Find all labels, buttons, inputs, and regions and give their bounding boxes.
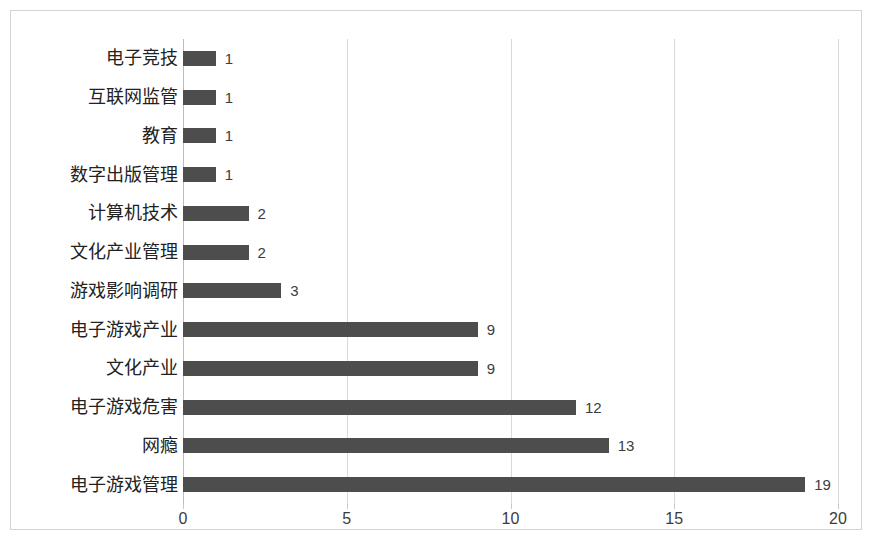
category-label: 游戏影响调研 — [18, 282, 178, 300]
bar-value-label: 9 — [487, 361, 495, 376]
y-axis-category-labels: 电子竞技互联网监管教育数字出版管理计算机技术文化产业管理游戏影响调研电子游戏产业… — [13, 39, 178, 504]
x-tick-label: 10 — [502, 511, 520, 527]
x-tick-label: 5 — [342, 511, 351, 527]
category-label: 网瘾 — [18, 437, 178, 455]
bar-row[interactable]: 1 — [183, 155, 838, 194]
tick-mark-20 — [838, 504, 839, 509]
x-tick-label: 15 — [665, 511, 683, 527]
bar-value-label: 2 — [258, 206, 266, 221]
category-label: 数字出版管理 — [18, 166, 178, 184]
category-label: 文化产业 — [18, 359, 178, 377]
bar-row[interactable]: 3 — [183, 272, 838, 311]
tick-mark-0 — [183, 504, 184, 509]
bar-value-label: 1 — [225, 167, 233, 182]
tick-mark-5 — [347, 504, 348, 509]
bar-row[interactable]: 19 — [183, 465, 838, 504]
bar[interactable] — [183, 361, 478, 376]
bar-value-label: 13 — [618, 438, 635, 453]
bar[interactable] — [183, 283, 281, 298]
tick-mark-15 — [674, 504, 675, 509]
bar-row[interactable]: 1 — [183, 117, 838, 156]
bar-value-label: 1 — [225, 128, 233, 143]
bar[interactable] — [183, 477, 805, 492]
bar-row[interactable]: 9 — [183, 349, 838, 388]
bar[interactable] — [183, 400, 576, 415]
category-label: 计算机技术 — [18, 204, 178, 222]
bar-value-label: 9 — [487, 322, 495, 337]
bar[interactable] — [183, 322, 478, 337]
category-label: 教育 — [18, 127, 178, 145]
category-label: 电子游戏产业 — [18, 321, 178, 339]
bar[interactable] — [183, 128, 216, 143]
bar[interactable] — [183, 167, 216, 182]
bar-value-label: 3 — [290, 283, 298, 298]
category-label: 电子竞技 — [18, 49, 178, 67]
category-label: 电子游戏管理 — [18, 476, 178, 494]
x-tick-label: 20 — [829, 511, 847, 527]
gridline-20 — [838, 39, 839, 504]
bar-chart-figure: 电子竞技互联网监管教育数字出版管理计算机技术文化产业管理游戏影响调研电子游戏产业… — [0, 0, 870, 542]
bar-row[interactable]: 2 — [183, 233, 838, 272]
tick-mark-10 — [511, 504, 512, 509]
x-axis-tick-labels: 05101520 — [183, 511, 838, 541]
bar[interactable] — [183, 206, 249, 221]
bar[interactable] — [183, 438, 609, 453]
bar[interactable] — [183, 51, 216, 66]
bar-value-label: 19 — [814, 477, 831, 492]
category-label: 电子游戏危害 — [18, 398, 178, 416]
bar-row[interactable]: 1 — [183, 39, 838, 78]
bar-row[interactable]: 13 — [183, 427, 838, 466]
bar[interactable] — [183, 245, 249, 260]
bar-row[interactable]: 12 — [183, 388, 838, 427]
plot-area: 111122399121319 — [183, 39, 838, 504]
bar-row[interactable]: 1 — [183, 78, 838, 117]
bar-value-label: 2 — [258, 245, 266, 260]
category-label: 文化产业管理 — [18, 243, 178, 261]
chart-frame: 电子竞技互联网监管教育数字出版管理计算机技术文化产业管理游戏影响调研电子游戏产业… — [10, 10, 862, 530]
bar-row[interactable]: 2 — [183, 194, 838, 233]
bar-row[interactable]: 9 — [183, 310, 838, 349]
bar-value-label: 12 — [585, 400, 602, 415]
bar[interactable] — [183, 90, 216, 105]
bar-value-label: 1 — [225, 51, 233, 66]
bar-value-label: 1 — [225, 90, 233, 105]
category-label: 互联网监管 — [18, 88, 178, 106]
x-tick-label: 0 — [179, 511, 188, 527]
